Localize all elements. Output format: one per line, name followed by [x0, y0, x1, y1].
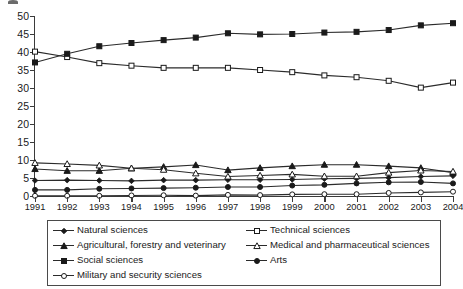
legend-item[interactable]: Arts — [246, 255, 287, 266]
x-axis-tick-label: 1995 — [153, 203, 174, 212]
legend-grid: Natural sciencesTechnical sciencesAgricu… — [48, 221, 440, 285]
legend-item[interactable]: Military and security sciences — [53, 270, 202, 281]
x-axis-tick — [324, 197, 325, 202]
series-social-sciences — [33, 21, 456, 65]
legend-marker-glyph — [58, 240, 69, 251]
y-axis-tick-label: 45 — [17, 29, 29, 40]
x-axis-tick-label: 2001 — [346, 203, 367, 212]
legend-item-label: Natural sciences — [77, 225, 148, 236]
data-point-filled-square — [290, 32, 295, 37]
legend-item-label: Technical sciences — [270, 225, 350, 236]
data-point-filled-square — [451, 21, 456, 26]
legend-item[interactable]: Technical sciences — [246, 225, 350, 236]
legend-marker-glyph — [58, 270, 69, 281]
x-axis-tick — [131, 197, 132, 202]
x-axis-tick-label: 2003 — [411, 203, 432, 212]
legend-marker-filled-square-icon — [53, 255, 74, 266]
x-axis-tick-label: 1998 — [250, 203, 271, 212]
y-axis-tick-label: 0 — [23, 191, 29, 202]
data-point-open-circle — [354, 192, 359, 197]
data-point-open-circle — [386, 190, 391, 195]
data-point-filled-circle — [258, 185, 263, 190]
x-axis-labels: 1991199219931994199519961997199819992000… — [35, 197, 453, 215]
data-point-filled-circle — [65, 187, 70, 192]
data-point-open-square — [161, 65, 166, 70]
legend-item[interactable]: Agricultural, forestry and veterinary — [53, 240, 226, 251]
data-point-open-circle — [322, 192, 327, 197]
legend-marker-glyph — [251, 240, 262, 251]
y-axis-tick-label: 15 — [17, 137, 29, 148]
clipped-top-artifact — [8, 0, 18, 4]
y-axis-tick-label: 10 — [17, 155, 29, 166]
data-point-filled-circle — [129, 186, 134, 191]
data-point-filled-circle — [161, 186, 166, 191]
data-point-filled-circle — [290, 183, 295, 188]
legend-marker-filled-diamond-icon — [53, 225, 74, 236]
data-point-filled-square — [418, 23, 423, 28]
data-point-open-square — [129, 63, 134, 68]
data-point-filled-circle — [322, 182, 327, 187]
legend-item[interactable]: Natural sciences — [53, 225, 148, 236]
data-point-filled-square — [161, 38, 166, 43]
y-axis-tick-label: 40 — [17, 47, 29, 58]
x-axis-tick-label: 1997 — [218, 203, 239, 212]
data-point-filled-circle — [451, 181, 456, 186]
data-point-filled-diamond — [289, 177, 295, 183]
data-point-filled-square — [354, 29, 359, 34]
y-axis-tick-label: 35 — [17, 65, 29, 76]
legend-marker-open-triangle-icon — [246, 240, 267, 251]
data-point-open-square — [193, 65, 198, 70]
legend-marker-glyph — [251, 255, 262, 266]
x-axis-tick — [421, 197, 422, 202]
series-technical-sciences — [33, 49, 456, 90]
data-point-open-square — [97, 61, 102, 66]
legend-item-label: Social sciences — [77, 255, 143, 266]
data-point-filled-square — [61, 258, 66, 263]
legend: Natural sciencesTechnical sciencesAgricu… — [47, 220, 441, 286]
data-point-open-square — [322, 73, 327, 78]
legend-item-label: Agricultural, forestry and veterinary — [77, 240, 226, 251]
x-axis-tick — [99, 197, 100, 202]
legend-item-label: Medical and pharmaceutical sciences — [270, 240, 429, 251]
x-axis-tick-label: 1993 — [89, 203, 110, 212]
plot-area: 05101520253035404550 — [35, 16, 453, 196]
series-layer — [35, 16, 453, 196]
data-point-open-square — [354, 75, 359, 80]
data-point-open-square — [418, 85, 423, 90]
legend-marker-open-circle-icon — [53, 270, 74, 281]
series-arts — [33, 179, 456, 192]
data-point-filled-diamond — [418, 174, 424, 180]
x-axis-tick — [357, 197, 358, 202]
y-axis-tick-label: 5 — [23, 173, 29, 184]
x-axis-tick-label: 2002 — [378, 203, 399, 212]
data-point-filled-diamond — [161, 177, 167, 183]
x-axis-tick — [228, 197, 229, 202]
x-axis-tick-label: 1996 — [185, 203, 206, 212]
x-axis-tick — [35, 197, 36, 202]
data-point-open-square — [225, 65, 230, 70]
data-point-filled-square — [386, 28, 391, 33]
legend-item-label: Military and security sciences — [77, 270, 202, 281]
data-point-open-square — [451, 80, 456, 85]
x-axis-tick-label: 1991 — [25, 203, 46, 212]
x-axis-tick — [389, 197, 390, 202]
legend-marker-filled-triangle-icon — [53, 240, 74, 251]
data-point-filled-diamond — [193, 177, 199, 183]
data-point-filled-circle — [386, 180, 391, 185]
y-axis-tick-label: 50 — [17, 11, 29, 22]
legend-item[interactable]: Medical and pharmaceutical sciences — [246, 240, 429, 251]
data-point-filled-diamond — [97, 178, 103, 184]
data-point-open-square — [290, 70, 295, 75]
data-point-open-square — [254, 228, 259, 233]
y-axis-tick-label: 20 — [17, 119, 29, 130]
legend-item[interactable]: Social sciences — [53, 255, 143, 266]
legend-marker-glyph — [58, 225, 69, 236]
data-point-filled-circle — [33, 187, 38, 192]
data-point-filled-diamond — [129, 178, 135, 184]
x-axis-tick-label: 2000 — [314, 203, 335, 212]
legend-marker-glyph — [251, 225, 262, 236]
x-axis-tick-label: 1994 — [121, 203, 142, 212]
legend-item-label: Arts — [270, 255, 287, 266]
data-point-filled-circle — [225, 185, 230, 190]
